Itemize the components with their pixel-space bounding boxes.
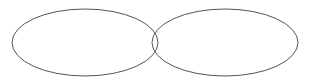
figure-canvas <box>0 0 311 84</box>
ellipses-drawing <box>0 0 311 84</box>
